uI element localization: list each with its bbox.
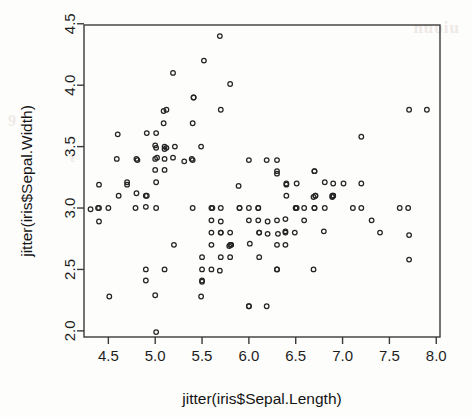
data-point (218, 206, 223, 211)
y-axis-tick-labels: 2.02.53.03.54.04.5 (62, 13, 79, 341)
data-point (351, 206, 356, 211)
x-tick-label: 8.0 (426, 347, 447, 364)
data-point (275, 267, 280, 272)
data-point (153, 293, 158, 298)
data-point (144, 205, 149, 210)
data-point (265, 232, 270, 237)
data-point (199, 144, 204, 149)
data-point (144, 267, 149, 272)
data-point (311, 267, 316, 272)
data-point (247, 158, 252, 163)
data-point (133, 206, 138, 211)
data-point (275, 243, 280, 248)
data-point (115, 132, 120, 137)
data-point (162, 168, 167, 173)
x-axis-ticks (108, 337, 436, 344)
data-point (276, 232, 281, 237)
data-point (107, 294, 112, 299)
data-point (199, 294, 204, 299)
data-point (284, 193, 289, 198)
data-point (322, 206, 327, 211)
y-axis-title: jitter(iris$Sepal.Width) (18, 105, 35, 258)
data-point (236, 184, 241, 189)
data-point (256, 218, 261, 223)
data-point (218, 219, 223, 224)
data-point (162, 267, 167, 272)
plot-frame (84, 25, 440, 337)
data-point (190, 121, 195, 126)
data-point (302, 206, 307, 211)
data-point (257, 255, 262, 260)
y-axis-ticks (77, 24, 84, 331)
axes-layer (77, 24, 440, 344)
data-point (283, 217, 288, 222)
data-point (144, 131, 149, 136)
data-point (154, 330, 159, 335)
data-point (182, 159, 187, 164)
data-point (154, 180, 159, 185)
data-point (154, 131, 159, 136)
x-tick-label: 6.5 (285, 347, 306, 364)
data-point (116, 193, 121, 198)
data-point (171, 71, 176, 76)
data-point (202, 58, 207, 63)
data-point (171, 155, 176, 160)
y-tick-label: 4.0 (62, 75, 79, 96)
data-point (209, 218, 214, 223)
data-point (302, 218, 307, 223)
data-point (312, 169, 317, 174)
data-point (257, 230, 262, 235)
data-point (275, 158, 280, 163)
data-point (256, 206, 261, 211)
data-point (106, 206, 111, 211)
data-point (153, 168, 158, 173)
y-tick-label: 2.0 (62, 320, 79, 341)
data-point (114, 157, 119, 162)
data-point (265, 219, 270, 224)
x-axis-tick-labels: 4.55.05.56.06.57.07.58.0 (98, 347, 447, 364)
data-point (209, 243, 214, 248)
data-point (312, 206, 317, 211)
x-tick-label: 5.0 (145, 347, 166, 364)
data-point (407, 107, 412, 112)
data-point (88, 207, 93, 212)
x-tick-label: 4.5 (98, 347, 119, 364)
y-tick-label: 3.0 (62, 198, 79, 219)
figure-canvas: nuoiu 9 t 4.55.05.56.06.57.07.58.0 2.02.… (0, 0, 472, 417)
data-point (191, 95, 196, 100)
data-point (247, 304, 252, 309)
data-point (341, 181, 346, 186)
data-point (209, 267, 214, 272)
x-tick-label: 6.0 (238, 347, 259, 364)
x-axis-title: jitter(iris$Sepal.Length) (181, 390, 341, 407)
data-point (247, 218, 252, 223)
axis-labels-layer: 4.55.05.56.06.57.07.58.0 2.02.53.03.54.0… (18, 13, 447, 407)
data-point (134, 191, 139, 196)
data-point (275, 218, 280, 223)
data-point (331, 181, 336, 186)
x-tick-label: 7.5 (379, 347, 400, 364)
scatter-plot: 4.55.05.56.06.57.07.58.0 2.02.53.03.54.0… (0, 0, 472, 417)
data-point (359, 206, 364, 211)
data-point (248, 241, 253, 246)
data-point (397, 206, 402, 211)
data-point (172, 243, 177, 248)
data-point (322, 180, 327, 185)
data-point (228, 82, 233, 87)
data-point (406, 206, 411, 211)
data-point (218, 268, 223, 273)
y-tick-label: 2.5 (62, 259, 79, 280)
data-point (218, 230, 223, 235)
data-point (154, 206, 159, 211)
data-point (209, 230, 214, 235)
data-point (407, 257, 412, 262)
data-point (369, 218, 374, 223)
data-point (218, 107, 223, 112)
x-tick-label: 7.0 (332, 347, 353, 364)
data-point (294, 181, 299, 186)
data-point (218, 34, 223, 39)
data-point (190, 206, 195, 211)
data-point (228, 230, 233, 235)
data-points-layer (88, 34, 429, 335)
data-point (218, 255, 223, 260)
